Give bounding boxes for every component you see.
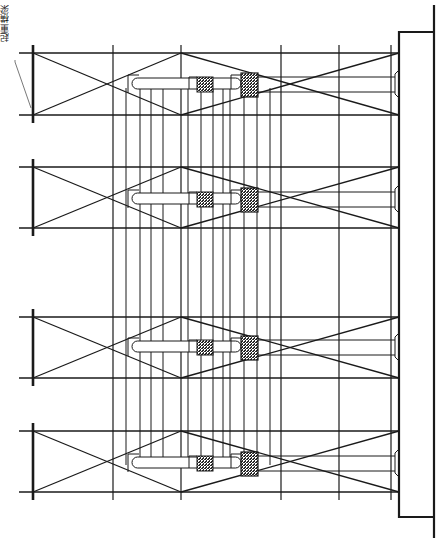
crane-beam-label: 起重横梁 — [0, 4, 12, 42]
label-leader-line — [15, 60, 31, 108]
trolley-bar — [132, 193, 241, 204]
hoist-block-small — [197, 192, 213, 207]
bay-1 — [19, 45, 399, 123]
bay-4 — [19, 423, 399, 500]
trolley-bar — [132, 78, 241, 89]
vertical-members — [113, 45, 391, 500]
hoist-block-large — [241, 336, 258, 360]
trolley-bar — [132, 341, 241, 352]
trolley-bar — [132, 457, 241, 468]
hoist-block-large — [241, 188, 258, 212]
leader-line — [15, 60, 31, 108]
crane-beam-bays — [19, 45, 399, 500]
hoist-block-small — [197, 456, 213, 471]
crane-beam-structure-drawing — [0, 0, 448, 538]
hoist-block-small — [197, 77, 213, 92]
bay-2 — [19, 159, 399, 236]
right-support-frame — [399, 5, 434, 538]
bay-3 — [19, 309, 399, 386]
support-wall-outline — [399, 32, 434, 517]
hoist-block-large — [241, 73, 258, 97]
hoist-block-small — [197, 340, 213, 355]
hoist-block-large — [241, 452, 258, 476]
